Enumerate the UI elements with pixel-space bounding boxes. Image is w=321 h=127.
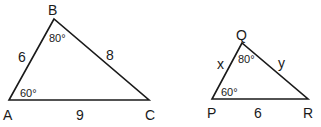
side-label-bc: 8 — [106, 47, 114, 63]
vertex-label-c: C — [145, 107, 155, 123]
vertex-label-b: B — [48, 2, 57, 18]
angle-label-p: 60° — [221, 86, 238, 98]
side-label-pr: 6 — [254, 105, 262, 121]
vertex-label-p: P — [207, 105, 216, 121]
angle-label-q: 80° — [238, 53, 255, 65]
side-label-qr: y — [278, 55, 285, 71]
vertex-label-q: Q — [236, 27, 247, 43]
angle-label-a: 60° — [20, 87, 37, 99]
side-label-ab: 6 — [18, 49, 26, 65]
side-label-pq: x — [217, 56, 224, 72]
angle-label-b: 80° — [49, 32, 66, 44]
similar-triangles-diagram: B A C 6 8 9 80° 60° Q P R x y 6 80° 60° — [0, 0, 321, 127]
side-label-ac: 9 — [76, 107, 84, 123]
vertex-label-a: A — [3, 107, 13, 123]
vertex-label-r: R — [303, 105, 313, 121]
